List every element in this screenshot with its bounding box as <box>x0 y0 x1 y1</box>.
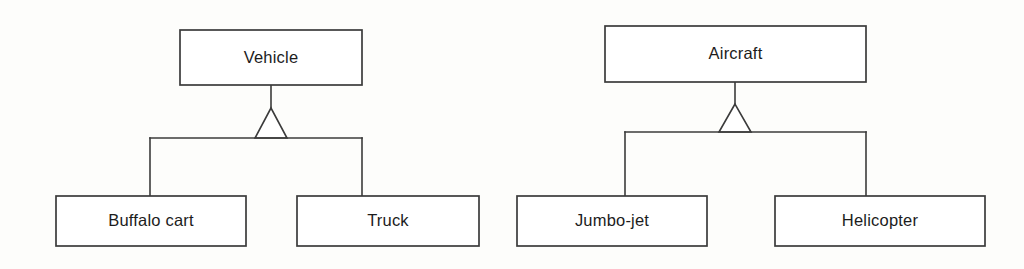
child-class-node[interactable]: Truck <box>297 196 479 246</box>
vehicle-hierarchy: VehicleBuffalo cartTruck <box>56 30 479 246</box>
diagram-canvas: VehicleBuffalo cartTruckAircraftJumbo-je… <box>0 0 1024 269</box>
parent-class-node[interactable]: Aircraft <box>605 26 866 82</box>
child-class-label: Buffalo cart <box>108 211 194 229</box>
generalization-triangle-icon <box>719 104 751 132</box>
parent-class-node[interactable]: Vehicle <box>180 30 362 85</box>
child-class-node[interactable]: Jumbo-jet <box>517 196 707 246</box>
child-class-node[interactable]: Buffalo cart <box>56 196 246 246</box>
child-class-label: Jumbo-jet <box>575 211 649 229</box>
uml-generalization-diagram: VehicleBuffalo cartTruckAircraftJumbo-je… <box>0 0 1024 269</box>
child-class-label: Helicopter <box>842 211 919 229</box>
parent-class-label: Aircraft <box>709 44 763 62</box>
parent-class-label: Vehicle <box>244 48 299 66</box>
generalization-triangle-icon <box>255 108 287 138</box>
child-class-node[interactable]: Helicopter <box>775 196 985 246</box>
aircraft-hierarchy: AircraftJumbo-jetHelicopter <box>517 26 985 246</box>
child-class-label: Truck <box>367 211 409 229</box>
